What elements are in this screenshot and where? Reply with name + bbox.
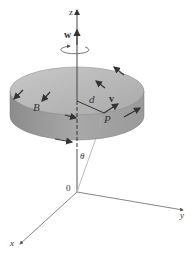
angular-velocity-label: w <box>64 30 71 40</box>
rotation-arrow-icon <box>61 46 89 54</box>
rotating-disk-diagram: z w B d v P θ 0 y x <box>0 0 194 257</box>
y-axis-label: y <box>180 211 184 220</box>
z-axis-label: z <box>69 8 73 17</box>
origin-label: 0 <box>66 184 71 193</box>
velocity-label: v <box>109 94 114 104</box>
x-axis-label: x <box>10 239 14 248</box>
point-p-label: P <box>104 114 111 125</box>
theta-label: θ <box>80 152 84 161</box>
distance-label: d <box>89 94 95 105</box>
diagram-graphics <box>0 0 194 257</box>
point-b-label: B <box>33 102 40 113</box>
